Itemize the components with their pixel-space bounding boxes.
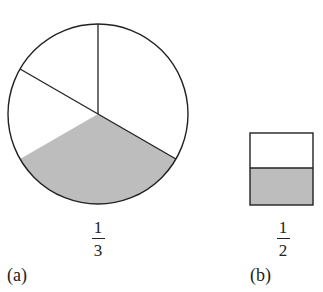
circle-divider-left <box>20 69 98 114</box>
fraction-denominator: 3 <box>78 242 118 259</box>
circle-shaded-sector <box>20 114 176 204</box>
fraction-one-half: 1 2 <box>263 219 303 259</box>
fraction-numerator: 1 <box>78 219 118 236</box>
square-diagram <box>250 133 313 205</box>
circle-diagram <box>8 24 188 204</box>
fraction-bar <box>277 238 290 239</box>
square-shaded-half <box>250 168 313 205</box>
panel-label-b: (b) <box>250 266 271 284</box>
fraction-numerator: 1 <box>263 219 303 236</box>
panel-label-a: (a) <box>7 266 27 284</box>
fraction-denominator: 2 <box>263 242 303 259</box>
fraction-one-third: 1 3 <box>78 219 118 259</box>
fraction-bar <box>92 238 105 239</box>
